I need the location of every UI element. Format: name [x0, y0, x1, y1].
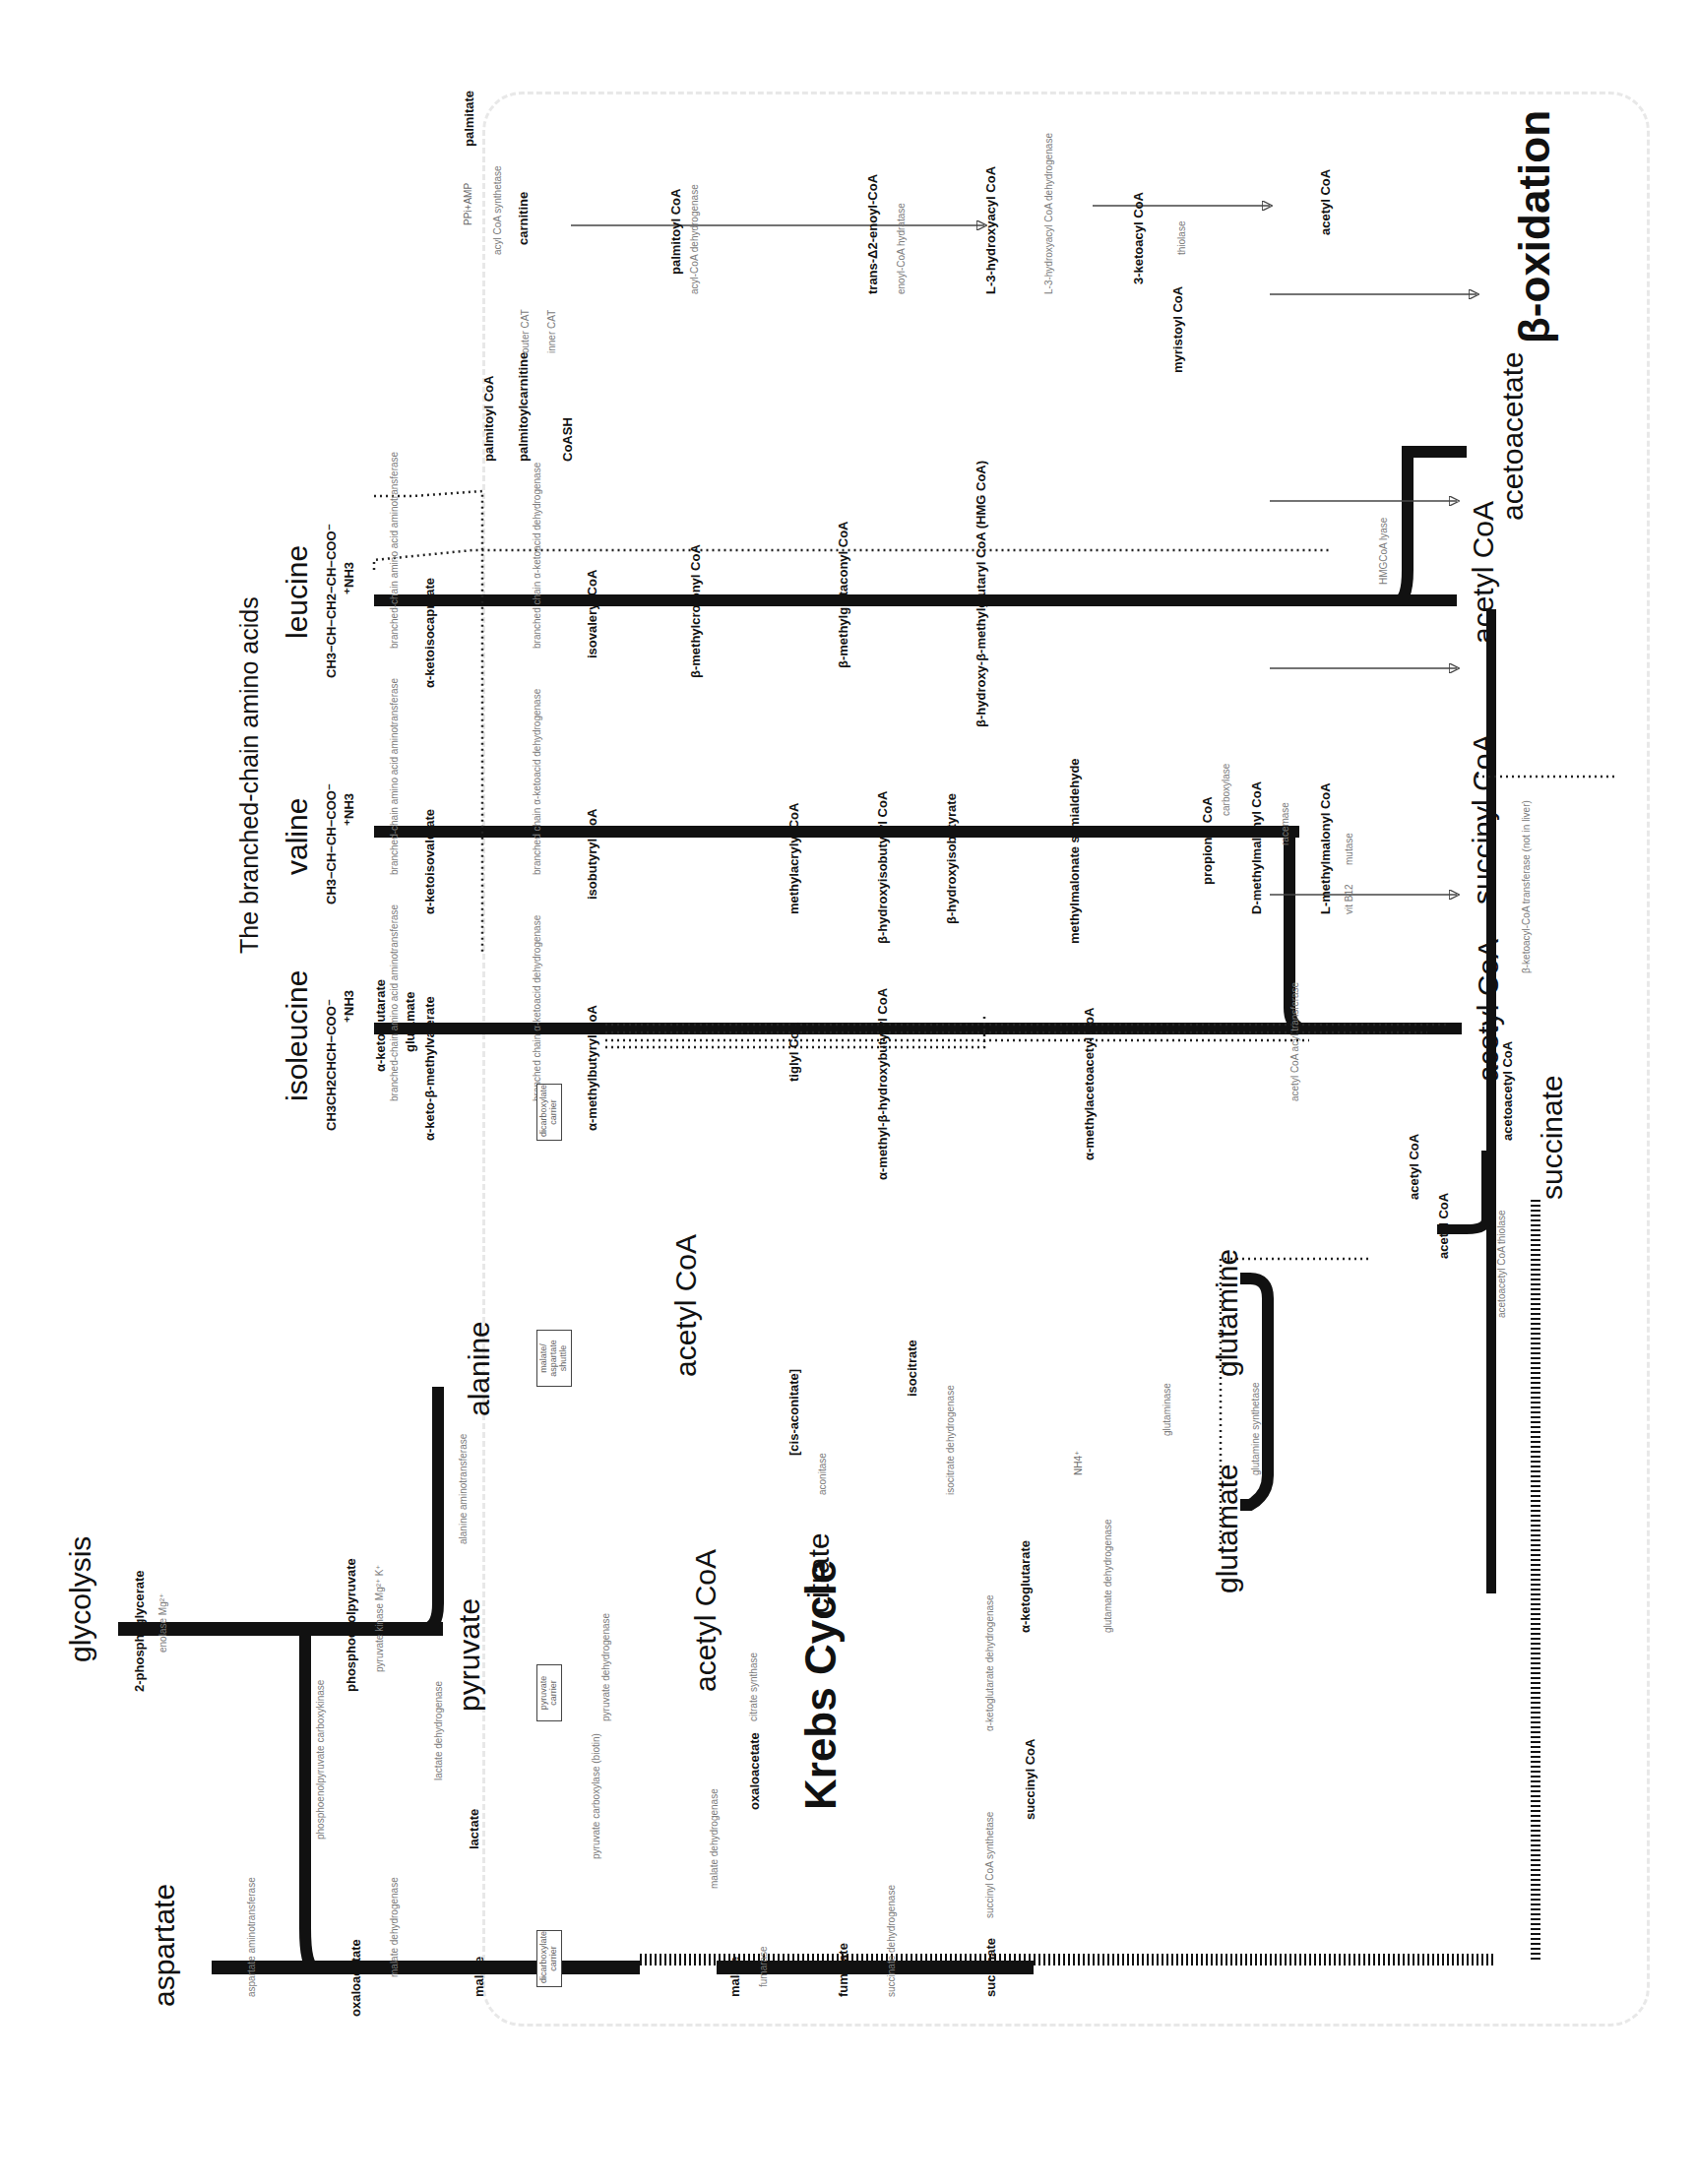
nh4-label: NH4⁺ — [1073, 1451, 1084, 1475]
succinate-output: succinate — [1536, 1075, 1568, 1200]
palmitoyl-coa-cyto: palmitoyl CoA — [482, 376, 496, 462]
acetoacetyl-coa-label: acetoacetyl CoA — [1501, 1041, 1515, 1141]
isocitrate-label: isocitrate — [906, 1340, 919, 1397]
beta-step-1: palmitoyl CoA — [669, 189, 683, 275]
fumarate-label: fumarate — [837, 1943, 850, 1997]
leucine-step-2: isovaleryl CoA — [586, 570, 599, 658]
leucine-formula: CH3−CH−CH2−CH−COO⁻ — [325, 524, 339, 678]
alanine-label: alanine — [463, 1321, 495, 1416]
beta-enzyme-3: L-3-hydroxyacyl CoA dehydrogenase — [1043, 133, 1054, 294]
dicarboxylate-carrier-1: dicarboxylate carrier — [536, 1930, 562, 1987]
valine-step-1: α-ketoisovalerate — [423, 809, 437, 914]
valine-step-4: β-hydroxyisobutyryl CoA — [876, 791, 890, 944]
enolase-label: enolase Mg²⁺ — [157, 1593, 168, 1653]
bckdh-label-val: branched chain α-ketoacid dehydrogenase — [532, 689, 542, 875]
bcaa-title: The branched-chain amino acids — [236, 596, 264, 954]
metabolic-map: The branched-chain amino acids β-oxidati… — [0, 0, 1696, 2184]
succinyl-coa-krebs: succinyl CoA — [1024, 1739, 1037, 1820]
mutase-label: mutase — [1344, 833, 1354, 865]
hmg-lyase-label: HMGCoA lyase — [1378, 518, 1389, 585]
isoleucine-step-3: tiglyl CoA — [787, 1022, 801, 1082]
isoleucine-step-5: α-methylacetoacetyl CoA — [1083, 1008, 1097, 1160]
beta-enzyme-1: acyl-CoA dehydrogenase — [689, 184, 700, 294]
mdh-cyto-label: malate dehydrogenase — [389, 1877, 400, 1977]
myristoyl-coa: myristoyl CoA — [1171, 286, 1185, 373]
ketoacyl-transferase-label: β-ketoacyl-CoA transferase (not in liver… — [1521, 800, 1532, 973]
carboxylase-label: carboxylase — [1221, 764, 1231, 816]
malate-cyto-label: malate — [472, 1957, 486, 1997]
gs-label: glutamine synthetase — [1250, 1382, 1261, 1475]
pathway-arrows — [0, 0, 1696, 2184]
thiolase-label: acetoacetyl CoA thiolase — [1496, 1210, 1507, 1318]
beta-step-5: acetyl CoA — [1319, 169, 1333, 235]
ppi-amp: PPi+AMP — [463, 183, 473, 225]
akg-ile: α-ketoglutarate — [374, 979, 388, 1072]
glu-ile: glutamate — [404, 992, 417, 1052]
aspartate-label: aspartate — [148, 1884, 180, 2007]
coash-beta: CoASH — [561, 417, 575, 462]
ast-label: aspartate aminotransferase — [246, 1877, 257, 1997]
racemase-label: racemase — [1280, 802, 1290, 845]
succinyl-coa-output: succinyl CoA — [1467, 734, 1499, 905]
pg2-label: 2-phosphoglycerate — [133, 1570, 147, 1692]
transaminase-label-ile: branched-chain amino acid aminotransfera… — [389, 905, 400, 1101]
beta-step-3: L-3-hydroxyacyl CoA — [984, 166, 998, 294]
bckdh-label-leu: branched chain α-ketoacid dehydrogenase — [532, 463, 542, 649]
ldh-label: lactate dehydrogenase — [433, 1681, 444, 1780]
pepck-label: phosphoenolpyruvate carboxykinase — [315, 1680, 326, 1840]
sdh-label: succinate dehydrogenase — [886, 1885, 897, 1997]
carnitine-label: carnitine — [517, 192, 531, 245]
leucine-label: leucine — [281, 545, 313, 639]
valine-step-5: β-hydroxyisobutyrate — [945, 793, 959, 924]
acetyl-transferase-label: acetyl CoA acyl transferase — [1289, 982, 1300, 1101]
transaminase-label-leu: branched-chain amino acid aminotransfera… — [389, 452, 400, 649]
acetyl-coa-leu-output: acetyl CoA — [1467, 501, 1499, 644]
valine-step-2: isobutyryl CoA — [586, 809, 599, 900]
cis-aconitate-label: [cis-aconitate] — [787, 1369, 801, 1456]
leucine-step-5: β-hydroxy-β-methylglutaryl CoA (HMG CoA) — [974, 461, 988, 727]
acetyl-coa-input: acetyl CoA — [669, 1234, 702, 1377]
isoleucine-label: isoleucine — [281, 970, 313, 1101]
isoleucine-step-1: α-keto-β-methylvalerate — [423, 996, 437, 1141]
krebs-acetyl-coa: acetyl CoA — [689, 1549, 722, 1692]
acetyl-coa-thiolase-2: acetyl CoA — [1437, 1193, 1451, 1259]
pdh-label: pyruvate dehydrogenase — [600, 1613, 611, 1721]
acyl-synthetase-label: acyl CoA synthetase — [492, 165, 503, 255]
citrate-label: citrate — [802, 1532, 835, 1613]
pc-label: pyruvate carboxylase (biotin) — [591, 1733, 601, 1859]
cs-label: citrate synthase — [748, 1653, 759, 1721]
succinate-krebs: succinate — [984, 1938, 998, 1997]
valine-step-3: methylacrylyl CoA — [787, 803, 801, 914]
glutamine-label: glutamine — [1211, 1249, 1243, 1377]
valine-label: valine — [281, 798, 313, 875]
mdh-krebs-label: malate dehydrogenase — [709, 1788, 720, 1889]
acetyl-coa-thiolase-1: acetyl CoA — [1408, 1134, 1421, 1200]
glycolysis-title: glycolysis — [64, 1536, 96, 1662]
alt-label: alanine aminotransferase — [458, 1434, 469, 1544]
leucine-step-3: β-methylcrotonyl CoA — [689, 544, 703, 678]
valine-nh3: ⁺NH3 — [343, 793, 356, 826]
vitb12-label: vit B12 — [1344, 884, 1354, 914]
palmitoylcarnitine-label: palmitoylcarnitine — [517, 352, 531, 462]
oaa-cyto-label: oxaloacetate — [349, 1939, 363, 2017]
pyruvate-carrier: pyruvate carrier — [536, 1664, 562, 1721]
palmitate-label: palmitate — [463, 91, 476, 147]
lactate-label: lactate — [468, 1809, 481, 1849]
malate-aspartate-shuttle: malate/ aspartate shuttle — [536, 1330, 572, 1387]
glutaminase-label: glutaminase — [1162, 1383, 1172, 1436]
aconitase-label: aconitase — [817, 1453, 828, 1495]
glutamate-label: glutamate — [1211, 1464, 1243, 1593]
beta-enzyme-4: thiolase — [1176, 221, 1187, 255]
bckdh-label-ile: branched chain α-ketoacid dehydrogenase — [532, 915, 542, 1101]
beta-oxidation-title: β-oxidation — [1511, 110, 1558, 343]
valine-formula: CH3−CH−CH−COO⁻ — [325, 783, 339, 905]
pk-label: pyruvate kinase Mg²⁺ K⁺ — [374, 1565, 385, 1673]
valine-step-8: D-methylmalonyl CoA — [1250, 781, 1264, 914]
beta-step-2: trans-Δ2-enoyl-CoA — [866, 174, 880, 294]
idh-label: isocitrate dehydrogenase — [945, 1385, 956, 1495]
pep-label: phosphoenolpyruvate — [345, 1558, 358, 1692]
gdh-label: glutamate dehydrogenase — [1102, 1519, 1113, 1633]
leucine-step-1: α-ketoisocaproate — [423, 578, 437, 688]
malate-krebs: malate — [728, 1957, 742, 1997]
beta-step-4: 3-ketoacyl CoA — [1132, 192, 1146, 284]
